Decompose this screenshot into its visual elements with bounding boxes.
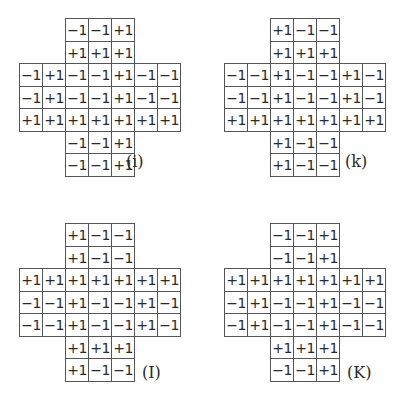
grid-cell: −1 [293, 291, 317, 314]
grid-cell: +1 [111, 41, 135, 64]
grid-cell: +1 [270, 131, 294, 154]
grid-cell: +1 [339, 268, 363, 292]
grid-cell: −1 [65, 153, 89, 177]
grid-cell: −1 [316, 153, 340, 177]
grid-cell: +1 [247, 108, 271, 132]
grid-cell: +1 [65, 336, 89, 359]
grid-cell: +1 [224, 268, 248, 292]
grid-cell: +1 [362, 268, 386, 292]
grid-cell: +1 [270, 268, 294, 292]
grid-cell: +1 [19, 268, 43, 292]
grid-cell: −1 [362, 86, 386, 109]
grid-cell: −1 [270, 291, 294, 314]
grid-cell: −1 [134, 86, 158, 109]
grid-cell: +1 [316, 336, 340, 359]
grid-cell: −1 [270, 246, 294, 269]
grid-cell: −1 [157, 291, 181, 314]
grid-cell: −1 [362, 63, 386, 87]
grid-cell: +1 [293, 108, 317, 132]
grid-cell: +1 [316, 108, 340, 132]
grid-cell: +1 [316, 291, 340, 314]
grid-cell: −1 [293, 153, 317, 177]
grid-cell: +1 [65, 246, 89, 269]
grid-cell: −1 [293, 313, 317, 337]
grid-cell: −1 [88, 223, 112, 247]
grid-cell: +1 [247, 313, 271, 337]
grid-cell: +1 [270, 336, 294, 359]
grid-cell: +1 [111, 108, 135, 132]
grid-cell: −1 [88, 131, 112, 154]
grid-cell: −1 [293, 358, 317, 382]
grid-cell: −1 [65, 18, 89, 42]
grid-cell: −1 [293, 18, 317, 42]
grid-cell: +1 [111, 86, 135, 109]
grid-cell: +1 [157, 268, 181, 292]
grid-cell: −1 [316, 18, 340, 42]
grid-cell: +1 [111, 336, 135, 359]
diagram-label-I: (I) [142, 363, 161, 382]
grid-cell: −1 [88, 86, 112, 109]
grid-cell: +1 [65, 313, 89, 337]
grid-cell: −1 [111, 291, 135, 314]
grid-cell: −1 [42, 291, 66, 314]
grid-cell: +1 [293, 41, 317, 64]
grid-cell: −1 [362, 291, 386, 314]
grid-cell: −1 [65, 131, 89, 154]
grid-cell: +1 [362, 108, 386, 132]
grid-cell: +1 [339, 86, 363, 109]
grid-cell: +1 [88, 108, 112, 132]
grid-cell: +1 [111, 268, 135, 292]
grid-cell: −1 [19, 63, 43, 87]
grid-cell: +1 [42, 268, 66, 292]
grid-cell: +1 [134, 291, 158, 314]
grid-cell: −1 [111, 313, 135, 337]
grid-cell: −1 [270, 313, 294, 337]
grid-cell: +1 [88, 41, 112, 64]
grid-cell: −1 [88, 313, 112, 337]
grid-cell: −1 [339, 291, 363, 314]
grid-cell: −1 [19, 86, 43, 109]
grid-cell: −1 [293, 246, 317, 269]
grid-cell: +1 [19, 108, 43, 132]
grid-cell: +1 [111, 63, 135, 87]
grid-cell: −1 [316, 86, 340, 109]
grid-cell: +1 [65, 358, 89, 382]
grid-cell: −1 [362, 313, 386, 337]
diagram-label-k: (k) [345, 152, 367, 171]
grid-cell: −1 [270, 358, 294, 382]
grid-cell: +1 [270, 108, 294, 132]
grid-cell: +1 [65, 268, 89, 292]
grid-cell: +1 [316, 223, 340, 247]
grid-cell: −1 [224, 291, 248, 314]
grid-cell: −1 [88, 63, 112, 87]
diagram-label-K: (K) [347, 363, 371, 382]
grid-cell: +1 [65, 41, 89, 64]
grid-cell: −1 [270, 223, 294, 247]
grid-cell: +1 [65, 108, 89, 132]
grid-cell: +1 [270, 41, 294, 64]
grid-cell: −1 [157, 86, 181, 109]
grid-cell: +1 [134, 268, 158, 292]
grid-cell: −1 [293, 86, 317, 109]
grid-cell: −1 [42, 313, 66, 337]
grid-cell: +1 [316, 246, 340, 269]
grid-cell: −1 [157, 313, 181, 337]
grid-cell: −1 [247, 86, 271, 109]
grid-cell: −1 [111, 358, 135, 382]
grid-cell: −1 [293, 131, 317, 154]
grid-cell: −1 [88, 153, 112, 177]
grid-cell: +1 [42, 108, 66, 132]
grid-cell: +1 [224, 108, 248, 132]
grid-cell: −1 [88, 291, 112, 314]
grid-cell: +1 [65, 223, 89, 247]
grid-cell: −1 [247, 63, 271, 87]
grid-cell: −1 [224, 313, 248, 337]
grid-cell: +1 [42, 86, 66, 109]
grid-cell: −1 [293, 223, 317, 247]
grid-cell: −1 [111, 223, 135, 247]
grid-cell: +1 [293, 268, 317, 292]
grid-cell: +1 [111, 18, 135, 42]
grid-cell: +1 [270, 63, 294, 87]
grid-cell: −1 [111, 246, 135, 269]
grid-cell: −1 [19, 291, 43, 314]
